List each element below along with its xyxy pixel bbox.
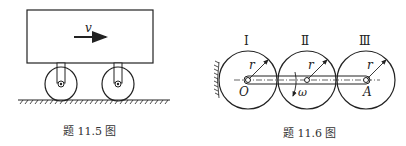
point-o-label: O: [239, 85, 249, 99]
diagram-canvas: [0, 0, 406, 146]
wheel-right: [102, 63, 134, 101]
fixed-support-hatch: [214, 61, 219, 98]
gear-3-radius-label: r: [367, 58, 373, 72]
omega-label: ω: [298, 86, 307, 99]
cart-figure: [18, 10, 170, 104]
gear-1-radius-label: r: [249, 58, 255, 72]
gear-3-numeral: Ⅲ: [359, 34, 371, 48]
caption-right: 题 11.6 图: [283, 124, 337, 140]
velocity-label: v: [85, 21, 92, 35]
wheel-left: [45, 63, 77, 101]
ground: [18, 100, 170, 104]
gear-1-numeral: Ⅰ: [244, 34, 249, 48]
caption-left: 题 11.5 图: [63, 122, 117, 138]
point-a-label: A: [363, 85, 372, 99]
gear-2-radius-label: r: [308, 58, 314, 72]
gear-2-numeral: Ⅱ: [301, 34, 309, 48]
